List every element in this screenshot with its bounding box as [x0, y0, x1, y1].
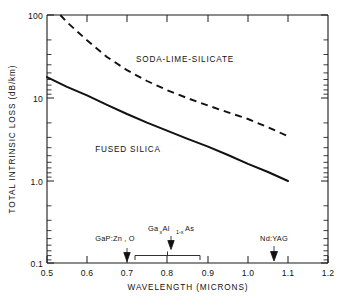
- curve-soda-lime-silicate-line: [60, 15, 288, 136]
- annotation-label-gaalas-as: As: [185, 224, 194, 233]
- y-tick-label: 10: [33, 94, 43, 104]
- x-tick-label: 0.8: [161, 268, 174, 278]
- y-tick-label: 1.0: [30, 177, 43, 187]
- annotation-label-gaalas: Ga x Al 1-x As: [148, 224, 194, 235]
- chart-figure: 100 10 1.0 0.1 0.5 0.6 0.7 0.8 0.9 1.0 1…: [0, 0, 342, 299]
- y-axis-ticks-right: [321, 15, 328, 263]
- x-tick-label: 0.6: [81, 268, 94, 278]
- y-tick-labels: 100 10 1.0 0.1: [28, 11, 43, 269]
- y-tick-label: 100: [28, 11, 43, 21]
- x-tick-label: 1.0: [242, 268, 255, 278]
- annotation-arrow-gaalas: [168, 236, 174, 250]
- x-tick-label: 0.5: [41, 268, 54, 278]
- annotation-arrow-nd-yag: [271, 246, 278, 261]
- intrinsic-loss-chart: 100 10 1.0 0.1 0.5 0.6 0.7 0.8 0.9 1.0 1…: [0, 0, 342, 299]
- x-tick-label: 0.9: [202, 268, 215, 278]
- annotation-arrow-gap-zn-o: [124, 248, 130, 262]
- x-axis-title: WAVELENGTH (MICRONS): [128, 283, 249, 292]
- series-label-fused-silica: FUSED SILICA: [95, 145, 161, 154]
- x-tick-labels: 0.5 0.6 0.7 0.8 0.9 1.0 1.1 1.2: [41, 268, 335, 278]
- y-axis-title: TOTAL INTRINSIC LOSS (dB/km): [8, 65, 17, 214]
- x-tick-label: 1.1: [282, 268, 295, 278]
- y-axis-ticks: [47, 15, 54, 263]
- annotation-label-gaalas-ga: Ga: [148, 224, 159, 233]
- annotation-label-gaalas-sub-1x: 1-x: [176, 229, 184, 235]
- annotation-label-nd-yag: Nd:YAG: [260, 234, 288, 243]
- curve-fused-silica: [47, 77, 288, 181]
- y-tick-label: 0.1: [30, 259, 43, 269]
- annotation-label-gap-zn-o: GaP:Zn , O: [95, 234, 134, 243]
- series-label-soda-lime-silicate: SODA-LIME-SILICATE: [136, 55, 234, 64]
- x-tick-label: 0.7: [121, 268, 134, 278]
- annotation-label-gaalas-al: Al: [163, 224, 170, 233]
- x-tick-label: 1.2: [322, 268, 335, 278]
